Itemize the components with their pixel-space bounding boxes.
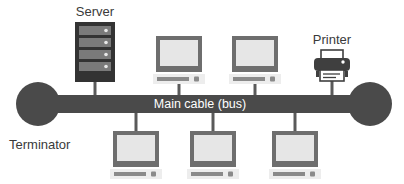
server-bay [79,38,111,47]
mouse-icon [270,77,275,82]
keyboard-icon [157,77,189,81]
printer-output-paper [320,70,344,81]
monitor-screen [236,40,274,66]
server-bay [79,26,111,35]
server-node: Server [75,4,115,82]
mouse-icon [310,172,315,177]
keyboard-icon [273,172,305,176]
printer-label: Printer [313,32,352,47]
bus-cable-label: Main cable (bus) [154,97,246,111]
server-bay-indicator-icon [104,65,108,69]
server-bay-indicator-icon [104,53,108,57]
keyboard-icon [233,77,265,81]
workstation-top-2 [229,36,281,84]
keyboard-icon [114,172,146,176]
monitor-screen [276,135,314,161]
printer-power-indicator-icon [341,60,344,63]
monitor-screen [194,135,232,161]
server-label: Server [76,4,115,19]
printer-foot [316,71,319,77]
printer-foot [345,71,348,77]
server-bay-indicator-icon [104,29,108,33]
bus-network-diagram: Main cable (bus) Terminator Server [0,0,404,184]
terminator-label: Terminator [9,137,71,152]
printer-input-tray [321,50,343,59]
mouse-icon [194,77,199,82]
keyboard-icon [191,172,223,176]
monitor-screen [160,40,198,66]
workstation-bottom-2 [187,131,239,179]
workstation-bottom-1 [110,131,162,179]
main-bus-cable: Main cable (bus) [25,95,375,113]
workstation-bottom-3 [269,131,321,179]
printer-node: Printer [313,32,352,81]
mouse-icon [151,172,156,177]
server-bay [79,50,111,59]
server-bay [79,62,111,71]
workstation-top-1 [153,36,205,84]
monitor-screen [117,135,155,161]
server-bay-indicator-icon [104,41,108,45]
printer-body [314,58,350,71]
mouse-icon [228,172,233,177]
